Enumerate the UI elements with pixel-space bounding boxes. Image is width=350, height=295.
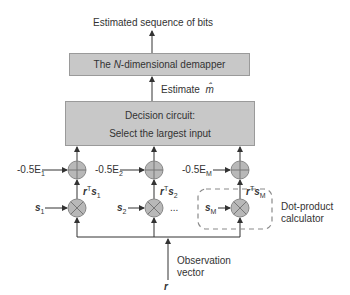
adder-icon	[145, 161, 163, 179]
branch-1-wiring	[42, 147, 77, 237]
branch-m-wiring	[213, 147, 240, 237]
demapper-box: The N-dimensional demapper	[69, 53, 250, 76]
observation-label: Observation vector	[177, 255, 231, 279]
demapper-label: The N-dimensional demapper	[70, 59, 249, 70]
observation-symbol: r	[164, 281, 168, 293]
adder-icon	[231, 161, 249, 179]
adder-icon	[68, 161, 86, 179]
signal-input-1: s1	[35, 202, 44, 218]
signal-input-2: s2	[117, 202, 126, 218]
estimate-label: Estimate m̂	[161, 84, 214, 96]
dot-label-2: rTs2	[160, 183, 178, 202]
dot-product-calculator-label: Dot-product calculator	[281, 201, 333, 225]
branch-2-wiring	[120, 147, 154, 237]
dot-label-m: rTsM	[246, 183, 266, 202]
ellipsis: ...	[170, 202, 178, 214]
energy-label-2: -0.5E2	[95, 164, 123, 180]
decision-line-1: Decision circuit:	[66, 110, 254, 121]
decision-circuit-box: Decision circuit: Select the largest inp…	[65, 101, 255, 146]
energy-label-1: -0.5E1	[17, 164, 45, 180]
energy-label-m: -0.5EM	[182, 164, 212, 180]
dot-label-1: rTs1	[83, 183, 101, 202]
decision-line-2: Select the largest input	[66, 128, 254, 139]
signal-input-m: sM	[205, 202, 216, 218]
diagram-canvas	[0, 0, 350, 295]
output-label: Estimated sequence of bits	[93, 17, 213, 29]
